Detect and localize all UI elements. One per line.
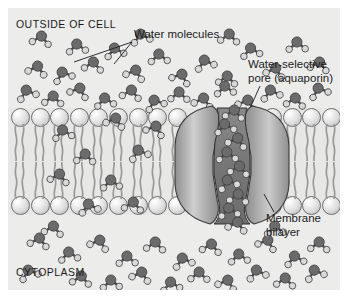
- water-molecule-cytoplasmic: [99, 273, 122, 290]
- water-molecule-in-membrane: [99, 173, 123, 192]
- label-membrane-line1: Membrane: [266, 212, 321, 226]
- leader-pore: [248, 86, 272, 108]
- lipid-tails: [301, 124, 320, 161]
- phospholipid: [147, 162, 166, 215]
- water-molecule-extracellular: [119, 82, 144, 103]
- water-molecule-cytoplasmic: [143, 235, 167, 254]
- lipid-tails: [10, 124, 29, 161]
- water-molecule-cytoplasmic: [273, 271, 297, 290]
- water-molecule-cytoplasmic: [188, 266, 211, 284]
- water-molecule-extracellular: [213, 79, 237, 98]
- water-molecule-in-membrane: [73, 147, 96, 165]
- water-molecule-cytoplasmic: [57, 245, 81, 265]
- aquaporin-diagram: OUTSIDE OF CELL CYTOPLASM Water molecule…: [0, 0, 348, 301]
- water-molecule-cytoplasmic: [159, 274, 184, 290]
- water-molecule-in-membrane: [121, 195, 145, 215]
- lipid-tails: [10, 162, 29, 199]
- phospholipid: [301, 162, 320, 215]
- phospholipid: [321, 162, 340, 215]
- phospholipid: [10, 108, 29, 161]
- water-molecule-extracellular: [29, 28, 54, 49]
- phospholipid: [30, 162, 49, 215]
- water-molecule-extracellular: [147, 47, 170, 65]
- lipid-tails: [321, 124, 340, 161]
- lipid-tails: [30, 124, 49, 161]
- water-molecule-extracellular: [41, 89, 64, 107]
- lipid-tails: [321, 162, 340, 199]
- water-molecule-extracellular: [217, 27, 241, 46]
- phospholipid: [30, 108, 49, 161]
- water-molecule-cytoplasmic: [199, 236, 224, 257]
- water-molecule-cytoplasmic: [307, 235, 330, 253]
- water-molecule-cytoplasmic: [227, 247, 251, 266]
- label-membrane-line2: bilayer: [266, 226, 300, 240]
- lipid-tails: [128, 162, 147, 199]
- phospholipid: [10, 162, 29, 215]
- label-outside-of-cell: OUTSIDE OF CELL: [16, 18, 116, 30]
- water-molecule-cytoplasmic: [41, 218, 66, 239]
- leader-water-molecules: [68, 38, 148, 70]
- label-pore-line1: Water-selective: [248, 58, 327, 72]
- lipid-tails: [301, 162, 320, 199]
- phospholipid: [301, 108, 320, 161]
- label-cytoplasm: CYTOPLASM: [16, 266, 85, 278]
- label-pore-line2: pore (aquaporin): [248, 72, 333, 86]
- lipid-tails: [147, 162, 166, 199]
- leader-membrane: [260, 194, 284, 214]
- illustration-panel: OUTSIDE OF CELL CYTOPLASM Water molecule…: [8, 8, 340, 290]
- water-molecule-extracellular: [93, 91, 117, 111]
- lipid-tails: [69, 162, 88, 199]
- phospholipid: [321, 108, 340, 161]
- water-molecule-extracellular: [286, 36, 309, 54]
